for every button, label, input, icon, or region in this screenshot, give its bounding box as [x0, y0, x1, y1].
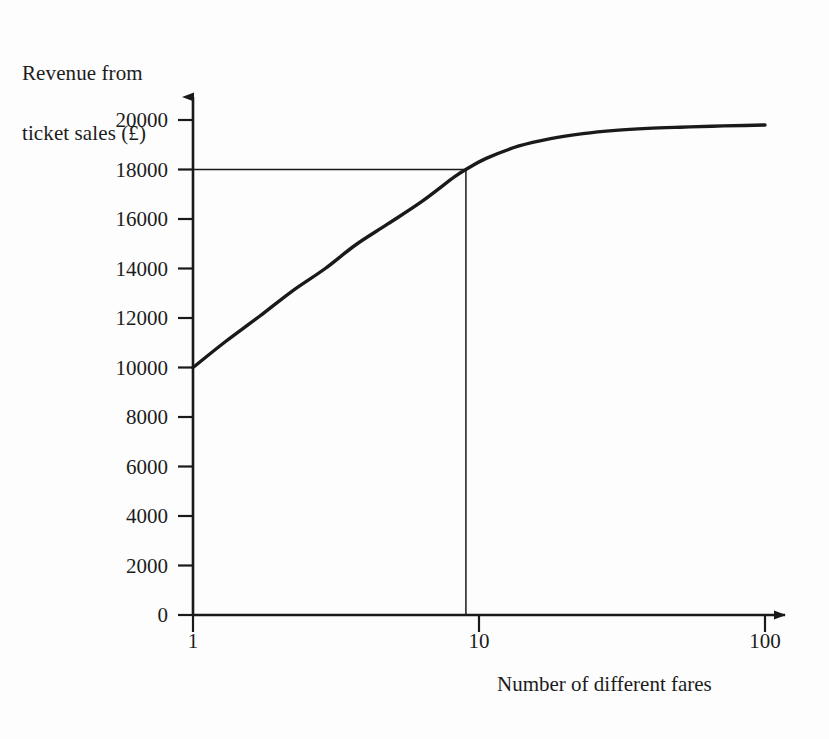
plot-area — [0, 0, 829, 739]
y-axis-ticks — [178, 120, 193, 615]
revenue-curve — [193, 125, 765, 368]
chart-figure: Revenue from ticket sales (£) 20000 1800… — [0, 0, 829, 739]
x-axis-ticks — [193, 615, 765, 632]
